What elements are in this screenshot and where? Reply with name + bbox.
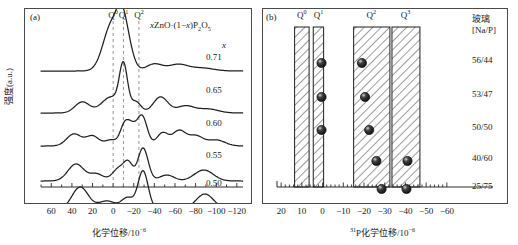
panel-a-x-header: x <box>222 40 226 50</box>
panel-b-datapoint-2-0 <box>317 125 326 134</box>
panel-b-xlabel-exponent: −6 <box>409 227 416 233</box>
panel-b-tick-2: 0 <box>320 206 325 216</box>
q-superscript: 3 <box>407 9 410 15</box>
panel-a-tick-6: −60 <box>168 206 182 216</box>
formula-mid: ZnO·(1− <box>154 20 186 30</box>
panel-b-datapoint-4-1 <box>402 184 411 193</box>
panel-a-tick-0: 60 <box>47 206 56 216</box>
panel-b-chart <box>262 8 508 204</box>
q-superscript: 0 <box>304 9 307 15</box>
panel-b-datapoint-3-1 <box>403 156 412 165</box>
glass-header-line2: [Na/P] <box>472 25 496 36</box>
panel-a-xlabel: 化学位移/10−6 <box>92 226 146 239</box>
panel-b-tick-0: 20 <box>277 206 286 216</box>
panel-a-tick-4: −20 <box>127 206 141 216</box>
q-superscript: 1 <box>125 9 128 15</box>
formula-sub-5: 5 <box>208 26 211 32</box>
panel-a-q-label-1: Q1 <box>119 10 129 20</box>
panel-a-formula: xZnO·(1−x)P2O5 <box>150 20 211 30</box>
panel-b-tick-8: −60 <box>440 206 454 216</box>
panel-b-tick-6: −40 <box>398 206 412 216</box>
panel-b-glass-row-4: 25/75 <box>472 181 493 191</box>
panel-b-glass-row-1: 53/47 <box>472 89 493 99</box>
panel-a-x-value-4: 0.50 <box>206 178 222 188</box>
glass-header-line1: 玻璃 <box>472 14 496 25</box>
panel-b-xlabel: 31P化学位移/10−6 <box>350 226 415 239</box>
panel-a-x-value-0: 0.71 <box>206 52 222 62</box>
panel-b-q-label-3: Q3 <box>401 10 411 20</box>
panel-a-x-value-1: 0.65 <box>206 85 222 95</box>
panel-b-tick-4: −20 <box>357 206 371 216</box>
panel-b-tick-5: −30 <box>378 206 392 216</box>
panel-a-q-label-0: Q0 <box>108 10 118 20</box>
q-superscript: 2 <box>373 9 376 15</box>
panel-b-tick-3: −10 <box>336 206 350 216</box>
panel-a-tick-5: −40 <box>147 206 161 216</box>
panel-a-q-label-2: Q2 <box>134 10 144 20</box>
panel-a-tick-7: −80 <box>189 206 203 216</box>
formula-suffix: )P <box>190 20 198 30</box>
q-superscript: 2 <box>141 9 144 15</box>
panel-a-tag: (a) <box>30 12 40 22</box>
panel-b-tick-7: −50 <box>419 206 433 216</box>
panel-b-datapoint-4-0 <box>377 184 386 193</box>
panel-b-datapoint-1-1 <box>360 92 369 101</box>
panel-b-glass-row-0: 56/44 <box>472 55 493 65</box>
panel-b-band-0 <box>295 27 310 187</box>
figure-root: (a) xZnO·(1−x)P2O5 强度(a.u.) Q0Q1Q2 60402… <box>0 0 518 245</box>
panel-b-datapoint-0-0 <box>317 58 326 67</box>
panel-b-tick-1: 10 <box>297 206 306 216</box>
panel-b-datapoint-0-1 <box>357 58 366 67</box>
panel-a-tick-1: 40 <box>67 206 76 216</box>
panel-a-spectra <box>24 8 252 204</box>
panel-b-tag: (b) <box>266 12 277 22</box>
panel-b-q-label-1: Q1 <box>314 10 324 20</box>
panel-a-tick-9: −120 <box>228 206 247 216</box>
panel-b-band-2 <box>354 27 390 187</box>
panel-b-glass-row-3: 40/60 <box>472 153 493 163</box>
panel-b-datapoint-2-1 <box>365 125 374 134</box>
q-superscript: 1 <box>320 9 323 15</box>
panel-b-glass-header: 玻璃 [Na/P] <box>472 14 496 36</box>
panel-a-xlabel-exponent: −6 <box>140 227 147 233</box>
q-superscript: 0 <box>115 9 118 15</box>
panel-a-x-value-3: 0.55 <box>206 150 222 160</box>
panel-a-plot-area <box>25 9 251 203</box>
panel-b-band-1 <box>313 27 323 187</box>
panel-b-xlabel-text: P化学位移/10 <box>356 228 409 238</box>
panel-a-xlabel-text: 化学位移/10 <box>92 228 140 238</box>
panel-a-tick-2: 20 <box>88 206 97 216</box>
panel-b-glass-row-2: 50/50 <box>472 122 493 132</box>
panel-a-tick-3: 0 <box>111 206 116 216</box>
panel-a-ylabel: 强度(a.u.) <box>2 68 15 105</box>
panel-a-x-value-2: 0.60 <box>206 118 222 128</box>
panel-b-q-label-2: Q2 <box>366 10 376 20</box>
panel-b-plot-area <box>263 9 507 203</box>
panel-b-datapoint-3-0 <box>372 156 381 165</box>
panel-b-q-label-0: Q0 <box>297 10 307 20</box>
panel-a-tick-8: −100 <box>207 206 226 216</box>
panel-b-datapoint-1-0 <box>317 92 326 101</box>
